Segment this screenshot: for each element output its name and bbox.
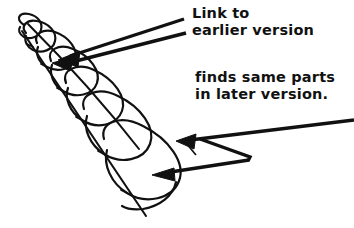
annotation-link-to-line-2: earlier version — [192, 22, 314, 39]
lower-pointer-arrowhead-lower — [152, 168, 175, 181]
annotation-finds-same-parts: finds same parts in later version. — [195, 69, 335, 103]
lower-pointer-bend — [200, 139, 250, 161]
annotation-finds-parts-line-2: in later version. — [195, 86, 335, 103]
figure-canvas: Link to earlier version finds same parts… — [0, 0, 354, 228]
lower-pointer-arrowhead-upper — [176, 134, 196, 149]
lower-pointer — [152, 120, 354, 181]
annotation-link-to-line-1: Link to — [192, 5, 314, 22]
helix-drawing — [19, 14, 181, 216]
annotation-link-to-earlier-version: Link to earlier version — [192, 5, 314, 39]
lower-pointer-upper-arm — [190, 120, 354, 140]
helix-edge-line — [28, 24, 139, 149]
lower-pointer-lower-arm — [164, 160, 249, 173]
annotation-finds-parts-line-1: finds same parts — [195, 69, 335, 86]
